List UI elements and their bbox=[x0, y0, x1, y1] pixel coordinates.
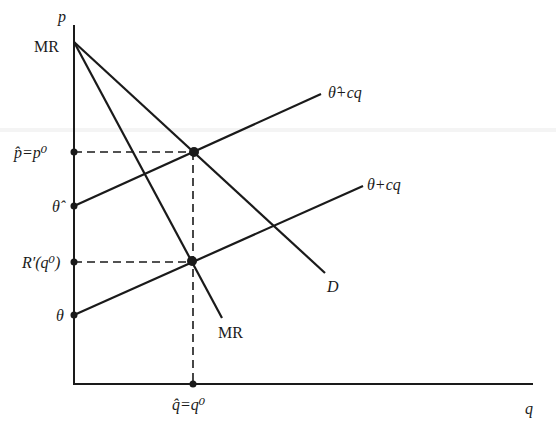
label-cost-theta: θ+cq bbox=[367, 176, 401, 194]
label-mr-intercept: MR bbox=[34, 38, 59, 55]
label-mr: MR bbox=[218, 324, 243, 341]
x-axis-label: q bbox=[525, 400, 533, 418]
cost-curve-theta bbox=[74, 186, 363, 315]
label-r-prime: R′(q⁰) bbox=[21, 254, 60, 272]
dot-p-hat bbox=[71, 149, 78, 156]
dot-theta-hat bbox=[71, 203, 78, 210]
label-theta-hat: θ̂ bbox=[52, 198, 66, 215]
dot-q-hat bbox=[190, 381, 197, 388]
dot-r-prime bbox=[71, 259, 78, 266]
pricing-diagram: p q MR p̂=p⁰ θ̂ R′(q⁰) θ q̂=q⁰ D MR θ̂+c… bbox=[0, 0, 556, 430]
equilibrium-point-lower bbox=[187, 256, 197, 266]
equilibrium-point-upper bbox=[189, 147, 199, 157]
label-cost-theta-hat: θ̂+cq bbox=[328, 84, 362, 102]
demand-curve bbox=[74, 42, 325, 273]
label-demand: D bbox=[326, 278, 339, 295]
label-q-hat: q̂=q⁰ bbox=[172, 396, 206, 414]
label-theta: θ bbox=[56, 307, 64, 324]
y-axis-label: p bbox=[57, 8, 66, 26]
label-p-hat: p̂=p⁰ bbox=[13, 144, 48, 162]
diagram-canvas: p q MR p̂=p⁰ θ̂ R′(q⁰) θ q̂=q⁰ D MR θ̂+c… bbox=[0, 0, 556, 430]
marginal-revenue-curve bbox=[74, 42, 222, 318]
dot-theta bbox=[71, 312, 78, 319]
